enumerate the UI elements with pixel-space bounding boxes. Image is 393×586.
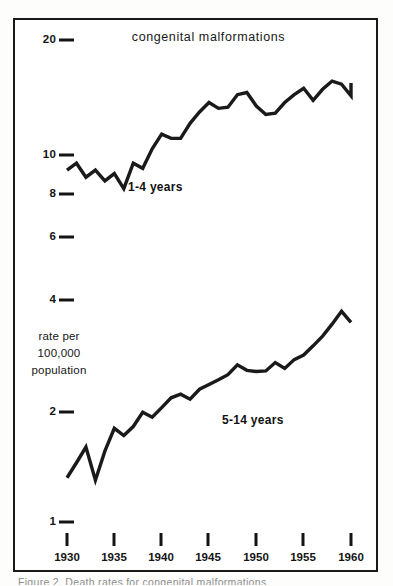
y-tick-label-20: 20 [22,33,56,45]
y-tick-label-2: 2 [22,405,56,417]
y-axis-caption-line-2: 100,000 [16,345,102,362]
y-axis-caption-line-3: population [16,362,102,379]
x-tick-label-1950: 1950 [233,551,279,563]
x-tick-label-1940: 1940 [138,551,184,563]
y-axis-caption: rate per 100,000 population [16,328,102,379]
x-tick-label-1955: 1955 [280,551,326,563]
chart-title: congenital malformations [0,30,393,44]
series-label-1-4-years: 1-4 years [128,180,183,194]
figure-caption: Figure 2. Death rates for congenital mal… [18,576,378,585]
x-tick-label-1930: 1930 [44,551,90,563]
x-tick-label-1960: 1960 [328,551,374,563]
y-tick-label-1: 1 [22,515,56,527]
x-tick-label-1935: 1935 [91,551,137,563]
figure-container: congenital malformations rate per 100,00… [0,0,393,586]
y-tick-label-6: 6 [22,230,56,242]
x-tick-label-1945: 1945 [185,551,231,563]
y-tick-label-8: 8 [22,187,56,199]
series-label-5-14-years: 5-14 years [222,413,284,427]
plot-frame [13,18,378,572]
y-tick-label-10: 10 [22,148,56,160]
y-axis-caption-line-1: rate per [16,328,102,345]
y-tick-label-4: 4 [22,293,56,305]
